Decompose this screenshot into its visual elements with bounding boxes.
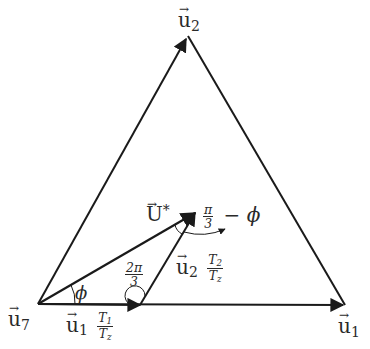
u1-symbol: u xyxy=(338,316,351,336)
u-star-vector-arrow xyxy=(38,213,195,304)
diagram-canvas xyxy=(0,0,370,349)
label-two-pi-three: 2π 3 xyxy=(122,261,143,288)
label-pi-three-minus-phi: π 3 − ϕ xyxy=(200,203,260,230)
label-u7-vertex: u7 xyxy=(8,309,30,332)
label-u1-vertex: u1 xyxy=(338,316,360,339)
u1-component-arrow xyxy=(38,304,140,305)
label-u1-component: u1 T1 Tz xyxy=(66,311,113,342)
label-u-star: U* xyxy=(146,203,170,224)
u2-symbol: u xyxy=(178,10,191,30)
label-u2-component: u2 T2 Tz xyxy=(176,253,223,284)
u7-symbol: u xyxy=(8,309,21,329)
space-vector-diagram: u2 u1 u7 U* π 3 − ϕ u2 T2 Tz 2π 3 ϕ xyxy=(0,0,370,349)
angle-pi-three-minus-phi-arc xyxy=(175,225,182,234)
u-star-symbol: U xyxy=(146,204,163,224)
label-u2-vertex: u2 xyxy=(178,10,200,33)
label-phi: ϕ xyxy=(75,284,87,302)
